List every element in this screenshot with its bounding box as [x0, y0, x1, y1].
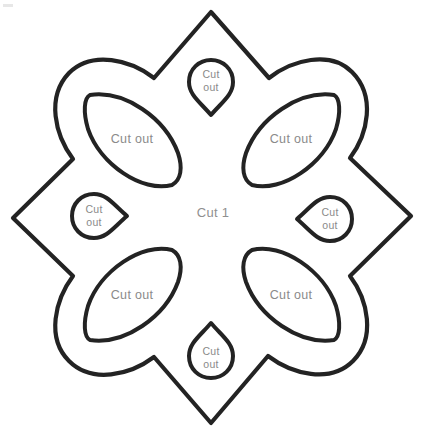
petal-bottom-right-label: Cut out — [270, 288, 313, 302]
teardrop-left-label-line1: Cut — [85, 203, 102, 215]
teardrop-bottom-label-line1: Cut — [202, 345, 219, 357]
center-label: Cut 1 — [197, 205, 230, 220]
flower-template-drawing: Cut out Cut out Cut out Cut out Cut out … — [0, 0, 431, 441]
petal-bottom-left-label: Cut out — [111, 288, 154, 302]
petal-top-left-label: Cut out — [111, 132, 154, 146]
template-page: Cut out Cut out Cut out Cut out Cut out … — [0, 0, 431, 441]
petal-top-right-label: Cut out — [270, 132, 313, 146]
teardrop-left-label-line2: out — [86, 216, 102, 228]
teardrop-top-label-line1: Cut — [202, 68, 219, 80]
teardrop-right-label-line2: out — [322, 219, 338, 231]
teardrop-bottom-label-line2: out — [203, 358, 219, 370]
teardrop-top-label-line2: out — [203, 81, 219, 93]
teardrop-right-label-line1: Cut — [321, 206, 338, 218]
